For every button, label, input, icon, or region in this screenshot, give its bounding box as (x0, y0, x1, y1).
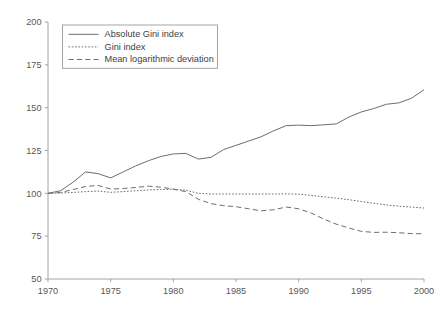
x-tick-label: 1990 (288, 286, 308, 296)
x-tick-label: 1985 (226, 286, 246, 296)
chart-legend: Absolute Gini indexGini indexMean logari… (63, 25, 218, 68)
x-tick-label: 1995 (351, 286, 371, 296)
y-tick-label: 50 (31, 274, 41, 284)
y-tick-label: 125 (26, 146, 41, 156)
x-tick-label: 1975 (100, 286, 120, 296)
legend-item-label: Gini index (105, 42, 146, 52)
y-tick-label: 175 (26, 60, 41, 70)
line-chart: 5075100125150175200 19701975198019851990… (0, 0, 443, 312)
x-tick-label: 2000 (414, 286, 434, 296)
chart-container: 5075100125150175200 19701975198019851990… (0, 0, 443, 312)
legend-item-label: Mean logarithmic deviation (105, 54, 214, 64)
y-tick-label: 100 (26, 189, 41, 199)
legend-item-label: Absolute Gini index (105, 29, 185, 39)
x-tick-label: 1980 (163, 286, 183, 296)
y-tick-label: 75 (31, 231, 41, 241)
y-tick-label: 150 (26, 103, 41, 113)
y-tick-label: 200 (26, 17, 41, 27)
x-tick-label: 1970 (38, 286, 58, 296)
